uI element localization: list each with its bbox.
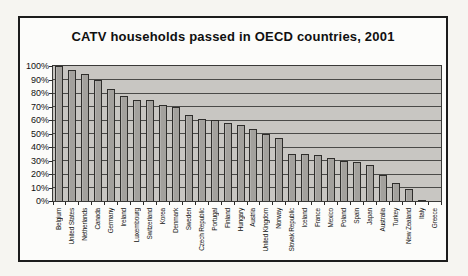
x-tick — [91, 202, 92, 205]
bar — [94, 80, 102, 202]
x-axis-label: Italy — [418, 208, 426, 219]
bar — [405, 189, 413, 201]
x-tick — [311, 202, 312, 205]
y-tick — [49, 66, 53, 67]
x-axis-label: Iceland — [301, 208, 309, 228]
bar — [366, 165, 374, 201]
y-axis-label: 80% — [22, 88, 49, 98]
chart-title: CATV households passed in OECD countries… — [20, 29, 446, 44]
x-axis-label: Australia — [379, 208, 387, 232]
y-axis-label: 20% — [22, 169, 49, 179]
x-axis-label: Belgium — [55, 208, 63, 230]
x-axis-label: Spain — [353, 208, 361, 224]
x-axis-label: New Zealand — [405, 208, 413, 244]
x-axis-label: Austria — [249, 208, 257, 227]
x-axis-label: Korea — [159, 208, 167, 224]
bar — [275, 138, 283, 201]
x-tick — [234, 202, 235, 205]
x-axis-label: Netherlands — [81, 208, 89, 241]
x-tick — [376, 202, 377, 205]
y-axis-label: 30% — [22, 156, 49, 166]
gridline — [53, 79, 441, 80]
x-tick — [272, 202, 273, 205]
y-tick — [49, 93, 53, 94]
x-axis-label: Slovak Republic — [288, 208, 296, 252]
x-tick — [363, 202, 364, 205]
bar — [185, 115, 193, 201]
y-axis-label: 0% — [22, 196, 49, 206]
x-axis-label: France — [314, 208, 322, 227]
bar — [68, 70, 76, 201]
bar — [237, 125, 245, 201]
x-tick — [143, 202, 144, 205]
x-axis-label: Poland — [340, 208, 348, 227]
x-tick — [195, 202, 196, 205]
x-tick — [182, 202, 183, 205]
chart-frame: CATV households passed in OECD countries… — [18, 16, 448, 262]
y-axis-label: 50% — [22, 129, 49, 139]
plot-area — [52, 65, 442, 202]
bar — [418, 200, 426, 201]
x-axis-label: Greece — [431, 208, 439, 228]
bar — [172, 107, 180, 202]
x-axis-label: Sweden — [185, 208, 193, 230]
y-axis-label: 10% — [22, 183, 49, 193]
x-tick — [208, 202, 209, 205]
x-tick — [428, 202, 429, 205]
x-tick — [441, 202, 442, 205]
x-axis-label: Luxembourg — [133, 208, 141, 242]
y-axis-label: 60% — [22, 115, 49, 125]
y-axis-label: 40% — [22, 142, 49, 152]
y-tick — [49, 107, 53, 108]
x-tick — [337, 202, 338, 205]
bar — [146, 100, 154, 201]
x-axis-label: Canada — [94, 208, 102, 230]
x-axis-label: Turkey — [392, 208, 400, 226]
x-tick — [415, 202, 416, 205]
y-axis-label: 90% — [22, 75, 49, 85]
x-axis-label: United Kingdom — [262, 208, 270, 251]
x-tick — [247, 202, 248, 205]
y-tick — [49, 188, 53, 189]
x-tick — [156, 202, 157, 205]
y-tick — [49, 174, 53, 175]
x-axis-label: Finland — [224, 208, 232, 228]
y-tick — [49, 161, 53, 162]
x-tick — [130, 202, 131, 205]
x-axis-label: Switzerland — [146, 208, 154, 239]
x-tick — [285, 202, 286, 205]
x-tick — [78, 202, 79, 205]
bar — [314, 155, 322, 201]
x-tick — [221, 202, 222, 205]
x-tick — [324, 202, 325, 205]
x-tick — [402, 202, 403, 205]
bar — [107, 89, 115, 201]
x-axis-label: Japan — [366, 208, 374, 225]
y-tick — [49, 147, 53, 148]
y-axis-label: 70% — [22, 102, 49, 112]
x-axis-label: Mexico — [327, 208, 335, 227]
x-axis-label: Czech Republic — [198, 208, 206, 251]
bar — [159, 105, 167, 201]
bar — [55, 66, 63, 201]
x-tick — [53, 202, 54, 205]
bar — [353, 162, 361, 201]
y-tick — [49, 134, 53, 135]
x-axis-label: Portugal — [211, 208, 219, 231]
x-axis-label: Ireland — [120, 208, 128, 226]
y-tick — [49, 120, 53, 121]
bar — [340, 161, 348, 202]
x-axis-label: Norway — [275, 208, 283, 229]
x-axis-label: United States — [68, 208, 76, 244]
bar — [198, 119, 206, 201]
bar — [249, 129, 257, 201]
x-tick — [350, 202, 351, 205]
x-tick — [298, 202, 299, 205]
x-axis-label: Denmark — [172, 208, 180, 233]
bar — [81, 74, 89, 201]
bar — [120, 96, 128, 201]
bar — [133, 100, 141, 201]
x-tick — [104, 202, 105, 205]
x-tick — [169, 202, 170, 205]
y-axis-label: 100% — [22, 61, 49, 71]
